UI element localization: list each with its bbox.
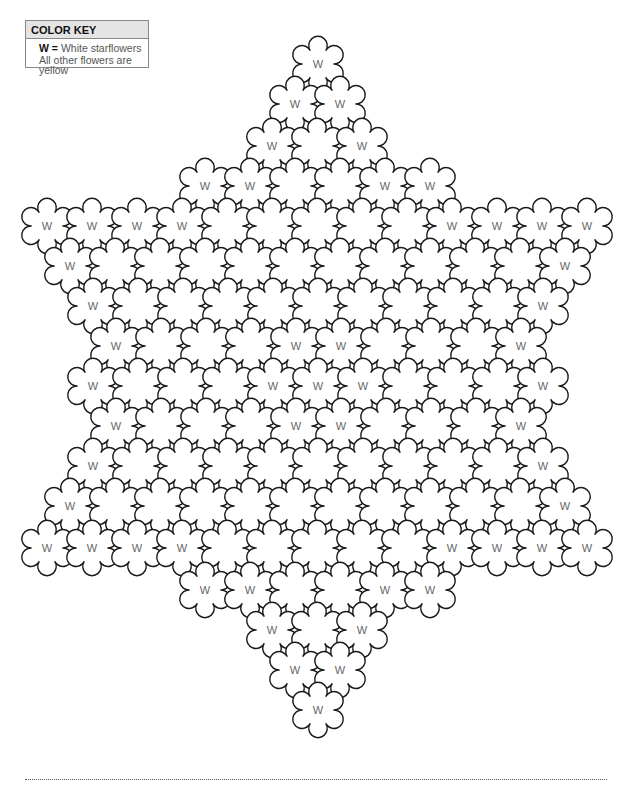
w-label: W xyxy=(245,180,256,192)
w-label: W xyxy=(268,380,279,392)
w-label: W xyxy=(291,340,302,352)
w-label: W xyxy=(313,704,324,716)
w-label: W xyxy=(290,664,301,676)
w-label: W xyxy=(492,542,503,554)
flower-grid: WWWWWWWWWWWWWWWWWWWWWWWWWWWWWWWWWWWWWWWW… xyxy=(22,36,612,737)
w-label: W xyxy=(132,542,143,554)
w-label: W xyxy=(200,180,211,192)
w-label: W xyxy=(87,542,98,554)
w-label: W xyxy=(425,584,436,596)
w-label: W xyxy=(335,98,346,110)
w-label: W xyxy=(200,584,211,596)
w-label: W xyxy=(290,98,301,110)
w-label: W xyxy=(177,220,188,232)
w-label: W xyxy=(357,624,368,636)
w-label: W xyxy=(42,220,53,232)
w-label: W xyxy=(132,220,143,232)
starflower-star-coloring-art: WWWWWWWWWWWWWWWWWWWWWWWWWWWWWWWWWWWWWWWW… xyxy=(0,0,632,788)
w-label: W xyxy=(245,584,256,596)
w-label: W xyxy=(336,420,347,432)
w-label: W xyxy=(537,542,548,554)
w-label: W xyxy=(88,380,99,392)
w-label: W xyxy=(538,460,549,472)
w-label: W xyxy=(88,460,99,472)
w-label: W xyxy=(177,542,188,554)
w-label: W xyxy=(267,624,278,636)
w-label: W xyxy=(582,220,593,232)
w-label: W xyxy=(336,340,347,352)
w-label: W xyxy=(267,140,278,152)
w-label: W xyxy=(537,220,548,232)
w-label: W xyxy=(65,260,76,272)
w-label: W xyxy=(492,220,503,232)
w-label: W xyxy=(357,140,368,152)
w-label: W xyxy=(516,420,527,432)
w-label: W xyxy=(88,300,99,312)
w-label: W xyxy=(447,542,458,554)
w-label: W xyxy=(425,180,436,192)
w-label: W xyxy=(447,220,458,232)
w-label: W xyxy=(335,664,346,676)
w-label: W xyxy=(380,180,391,192)
w-label: W xyxy=(313,380,324,392)
w-label: W xyxy=(291,420,302,432)
w-label: W xyxy=(582,542,593,554)
w-label: W xyxy=(313,58,324,70)
dotted-footer-divider xyxy=(25,779,607,780)
w-label: W xyxy=(538,380,549,392)
w-label: W xyxy=(65,500,76,512)
w-label: W xyxy=(538,300,549,312)
w-label: W xyxy=(42,542,53,554)
w-label: W xyxy=(111,340,122,352)
w-label: W xyxy=(516,340,527,352)
w-label: W xyxy=(87,220,98,232)
w-label: W xyxy=(111,420,122,432)
w-label: W xyxy=(380,584,391,596)
w-label: W xyxy=(560,500,571,512)
w-label: W xyxy=(560,260,571,272)
w-label: W xyxy=(358,380,369,392)
